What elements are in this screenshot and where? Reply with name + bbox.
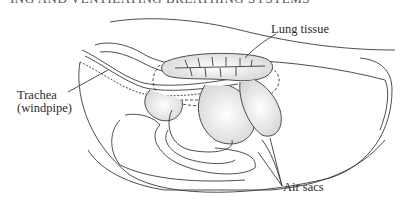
air-sacs-leader-1 — [258, 152, 282, 186]
label-air-sacs: Air sacs — [283, 181, 324, 194]
air-sac — [145, 90, 183, 121]
lung-tissue-leader — [245, 34, 276, 58]
label-lung-tissue: Lung tissue — [271, 23, 329, 36]
trachea-leader — [68, 70, 108, 92]
label-trachea-line2: (windpipe) — [17, 102, 72, 115]
label-trachea: Trachea (windpipe) — [17, 89, 72, 115]
